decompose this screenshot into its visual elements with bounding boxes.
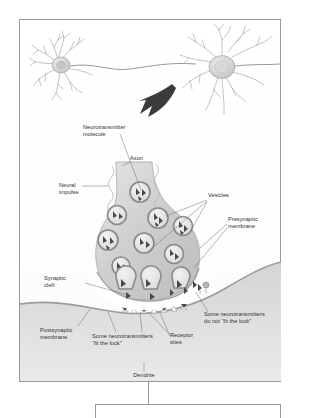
label-axon: Axon [130,155,162,162]
label-vesicles: Vesicles [208,192,244,199]
label-receptor-sites: Receptor sites [170,332,204,346]
box-connector-line [148,382,149,404]
label-synaptic-cleft: Synaptic cleft [44,275,84,289]
label-presynaptic-membrane: Presynaptic membrane [228,216,278,230]
lower-continuation-box [95,404,281,418]
label-dendrite: Dendrite [116,372,172,379]
label-fit-the-lock: Some neurotransmitters “fit the lock” [92,333,160,347]
label-neural-impulse: Neural impulse [59,182,93,196]
label-postsynaptic-membrane: Postsynaptic membrane [40,327,88,341]
label-neurotransmitter-molecule: Neurotransmitter molecule [83,124,153,138]
label-do-not-fit-the-lock: Some neurotransmitters do not “fit the l… [204,311,280,325]
